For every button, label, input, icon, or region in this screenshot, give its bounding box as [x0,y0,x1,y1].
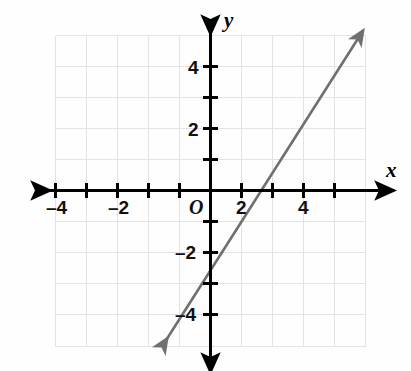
x-tick-label-4: 4 [298,198,309,217]
origin-label: O [189,197,203,217]
y-tick-label-4: 4 [188,58,199,77]
y-tick-label-2: 2 [188,120,199,139]
y-tick-label-neg2: –2 [175,243,196,262]
x-tick-label-neg2: –2 [108,198,129,217]
graph-canvas [0,0,411,371]
coordinate-plane-figure: –4 –2 2 4 4 2 –2 –4 O x y [0,0,411,371]
y-axis-label: y [224,10,233,31]
x-axis-label: x [386,160,397,181]
y-tick-label-neg4: –4 [175,305,196,324]
x-tick-label-2: 2 [236,198,247,217]
x-tick-label-neg4: –4 [46,198,67,217]
